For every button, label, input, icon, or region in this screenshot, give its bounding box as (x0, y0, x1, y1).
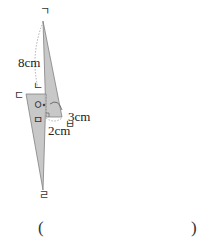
congruent-triangles-figure (0, 0, 207, 249)
answer-open-paren: ( (38, 218, 44, 238)
center-point (43, 104, 46, 107)
vertex-label-circle: ㅇ (33, 100, 43, 111)
answer-close-paren: ) (191, 218, 197, 238)
dimension-label-3cm: 3cm (68, 110, 90, 123)
vertex-label-top: ㄱ (40, 6, 50, 17)
dimension-arc-2cm (46, 118, 62, 121)
vertex-label-upper-mid: ㄴ (33, 81, 43, 92)
vertex-label-left: ㄷ (14, 90, 24, 101)
vertex-label-lower-mid: ㅁ (33, 115, 43, 126)
vertex-label-bottom: ㄹ (39, 190, 49, 201)
dimension-label-8cm: 8cm (18, 56, 40, 69)
dimension-label-2cm: 2cm (48, 124, 70, 137)
